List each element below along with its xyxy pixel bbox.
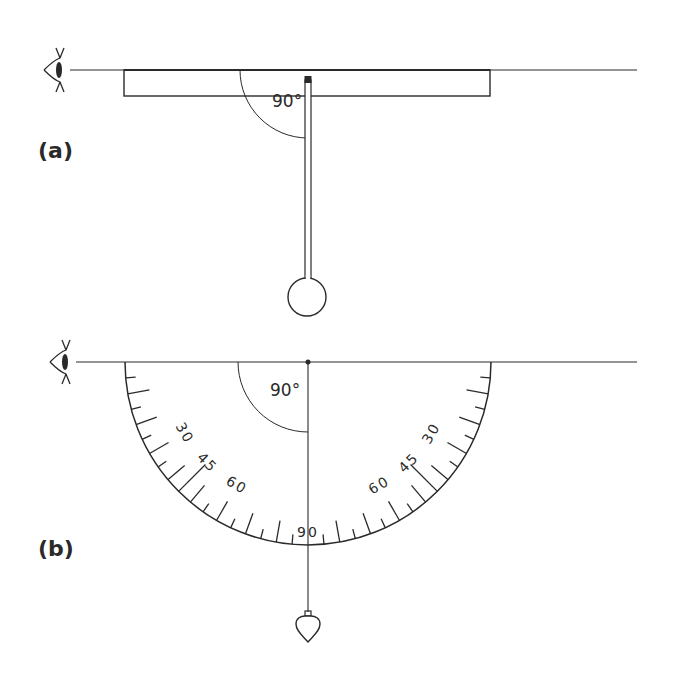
- eye-pupil: [56, 62, 62, 78]
- scale-label: 30: [419, 420, 444, 447]
- scale-tick: [126, 377, 136, 378]
- scale-tick: [168, 465, 185, 479]
- scale-tick: [245, 513, 253, 534]
- scale-tick: [336, 521, 340, 543]
- scale-label: 60: [224, 473, 251, 498]
- eye-icon: [44, 48, 64, 92]
- eye-lash: [62, 340, 66, 350]
- scale-tick: [459, 417, 480, 425]
- pendulum-bob: [288, 278, 326, 316]
- pendulum-stem: [305, 80, 311, 279]
- scale-tick: [179, 465, 206, 492]
- scale-tick: [150, 443, 169, 454]
- plumb-bob: [296, 616, 320, 642]
- eye-lash: [62, 374, 66, 384]
- eye-icon: [50, 340, 70, 384]
- pivot-point: [306, 360, 311, 365]
- clinometer-diagram: 90° 3045609060453090°: [0, 0, 676, 677]
- scale-label: 30: [173, 420, 198, 447]
- eye-lash: [56, 48, 60, 58]
- scale-tick: [203, 504, 209, 512]
- scale-tick: [142, 435, 151, 439]
- scale-tick: [131, 407, 141, 410]
- angle-label-90: 90°: [272, 91, 302, 111]
- angle-label-90: 90°: [270, 380, 300, 400]
- panel-b-protractor-clinometer: 3045609060453090°: [50, 340, 637, 642]
- scale-tick: [231, 519, 235, 528]
- scale-tick: [363, 513, 371, 534]
- scale-label: 60: [366, 473, 393, 498]
- scale-tick: [292, 534, 293, 544]
- scale-tick: [353, 529, 356, 539]
- eye-lash: [56, 82, 60, 92]
- scale-tick: [261, 529, 264, 539]
- scale-tick: [407, 504, 413, 512]
- scale-tick: [431, 465, 448, 479]
- scale-tick: [389, 501, 400, 520]
- panel-a-label: (a): [38, 138, 73, 163]
- scale-tick: [411, 485, 425, 502]
- eye-pupil: [62, 354, 68, 370]
- scale-tick: [158, 461, 166, 467]
- scale-tick: [217, 501, 228, 520]
- figure-canvas: 90° 3045609060453090° (a) (b): [0, 0, 676, 677]
- scale-tick: [475, 407, 485, 410]
- scale-tick: [447, 443, 466, 454]
- scale-tick: [136, 417, 157, 425]
- scale-tick: [190, 485, 204, 502]
- scale-tick: [128, 390, 150, 394]
- scale-tick: [465, 435, 474, 439]
- scale-tick: [480, 377, 490, 378]
- panel-b-label: (b): [38, 536, 74, 561]
- scale-tick: [411, 465, 438, 492]
- stem-joint: [306, 275, 310, 283]
- scale-tick: [467, 390, 489, 394]
- scale-tick: [323, 534, 324, 544]
- panel-a-hanging-pointer: 90°: [44, 48, 637, 316]
- scale-tick: [381, 519, 385, 528]
- pivot-pin: [305, 76, 312, 83]
- scale-tick: [450, 461, 458, 467]
- scale-tick: [276, 521, 280, 543]
